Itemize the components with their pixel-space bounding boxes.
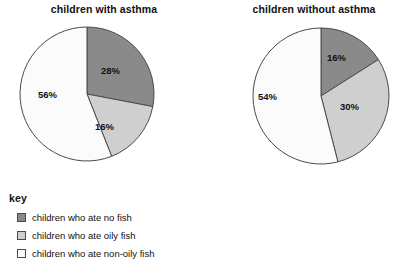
chart-children-with-asthma: children with asthma 28% 16% 56% [0, 0, 208, 175]
legend-swatch-non-oily-fish [17, 249, 26, 258]
legend-item-non-oily-fish: children who ate non-oily fish [9, 245, 239, 262]
legend: key children who ate no fish children wh… [9, 192, 239, 263]
pie-right-label-non-oily-fish: 54% [258, 91, 277, 102]
legend-item-no-fish: children who ate no fish [9, 209, 239, 226]
chart-children-without-asthma: children without asthma 16% 30% 54% [207, 0, 415, 178]
legend-item-oily-fish: children who ate oily fish [9, 227, 239, 244]
legend-swatch-oily-fish [17, 231, 26, 240]
pie-slice-no-fish [87, 27, 154, 107]
legend-label-non-oily-fish: children who ate non-oily fish [32, 249, 155, 259]
pie-left-label-no-fish: 28% [101, 65, 120, 76]
legend-title: key [9, 192, 239, 204]
legend-label-oily-fish: children who ate oily fish [32, 231, 136, 241]
legend-label-no-fish: children who ate no fish [32, 213, 132, 223]
legend-swatch-no-fish [17, 213, 26, 222]
pie-left-wrapper: 28% 16% 56% [0, 0, 208, 175]
pie-right-label-no-fish: 16% [327, 52, 346, 63]
pie-left-label-non-oily-fish: 56% [38, 89, 57, 100]
pie-left-label-oily-fish: 16% [95, 121, 114, 132]
pie-right-label-oily-fish: 30% [340, 101, 359, 112]
pie-chart-figure: children with asthma 28% 16% 56% childre… [0, 0, 415, 263]
pie-right-wrapper: 16% 30% 54% [207, 0, 415, 178]
